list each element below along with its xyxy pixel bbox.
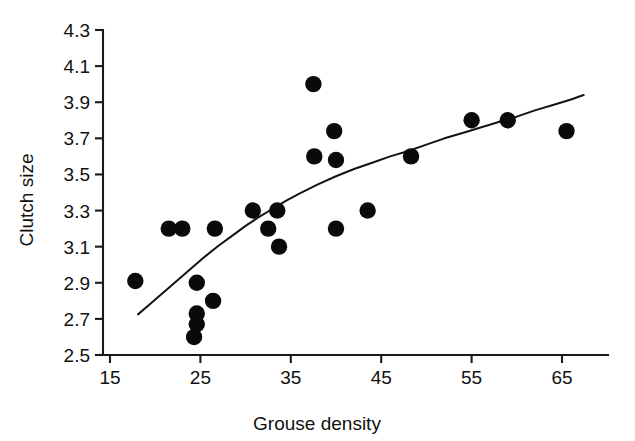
data-point <box>271 238 287 254</box>
data-point <box>359 202 375 218</box>
data-point <box>326 123 342 139</box>
y-tick-label: 2.7 <box>64 309 90 330</box>
y-axis-title: Clutch size <box>16 154 37 247</box>
data-point <box>328 220 344 236</box>
data-point <box>500 112 516 128</box>
x-tick-label: 35 <box>280 367 301 388</box>
x-tick-label: 25 <box>190 367 211 388</box>
data-point <box>269 202 285 218</box>
data-point <box>328 152 344 168</box>
y-tick-label: 3.3 <box>64 201 90 222</box>
y-tick-label: 4.3 <box>64 20 90 41</box>
data-point <box>306 148 322 164</box>
x-tick-label: 65 <box>551 367 572 388</box>
data-point <box>127 273 143 289</box>
x-axis-title: Grouse density <box>253 413 381 434</box>
x-tick-label: 55 <box>461 367 482 388</box>
y-tick-label: 3.1 <box>64 237 90 258</box>
data-point <box>205 293 221 309</box>
data-point <box>463 112 479 128</box>
data-point <box>245 202 261 218</box>
y-tick-label: 2.9 <box>64 273 90 294</box>
data-point <box>558 123 574 139</box>
y-tick-label: 3.9 <box>64 92 90 113</box>
data-point <box>174 220 190 236</box>
data-point <box>260 220 276 236</box>
data-point <box>305 76 321 92</box>
y-tick-label: 3.7 <box>64 128 90 149</box>
y-tick-label: 2.5 <box>64 345 90 366</box>
scatter-chart-figure: 2.52.72.93.13.33.53.73.94.14.3 152535455… <box>0 0 635 441</box>
data-point <box>207 220 223 236</box>
data-point <box>189 275 205 291</box>
x-tick-label: 15 <box>99 367 120 388</box>
data-point <box>403 148 419 164</box>
y-tick-label: 3.5 <box>64 164 90 185</box>
chart-canvas: 2.52.72.93.13.33.53.73.94.14.3 152535455… <box>0 0 635 441</box>
data-point <box>189 305 205 321</box>
y-tick-label: 4.1 <box>64 56 90 77</box>
x-tick-label: 45 <box>371 367 392 388</box>
